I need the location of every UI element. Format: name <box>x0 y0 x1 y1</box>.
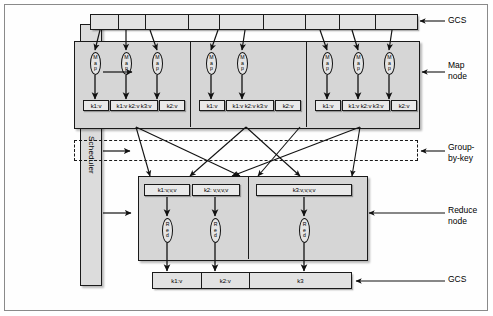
connector-arrow <box>389 30 392 50</box>
connector-arrow <box>352 30 358 50</box>
connector-arrow <box>232 127 360 176</box>
label-reduce-node: Reduce node <box>448 205 477 226</box>
connector-arrow <box>136 127 240 176</box>
connector-layer <box>0 0 493 316</box>
connector-arrow <box>242 30 245 50</box>
connector-arrow <box>136 127 150 176</box>
connector-arrow <box>320 30 327 50</box>
connector-arrow <box>211 30 218 50</box>
connector-arrow <box>190 127 246 176</box>
connector-arrow <box>95 30 100 50</box>
connector-arrow <box>258 127 300 176</box>
connector-arrow <box>352 127 360 176</box>
label-gcs-bottom: GCS <box>448 274 466 285</box>
label-group-by-key: Group- by-key <box>448 142 474 163</box>
connector-arrow <box>246 127 300 176</box>
label-map-node: Map node <box>448 60 467 81</box>
connector-arrow <box>150 30 157 50</box>
label-gcs-top: GCS <box>448 15 466 26</box>
mapreduce-architecture-diagram: Scheduler MapMapMapk1:vk1:v k2:v k3:vk2:… <box>0 0 493 316</box>
